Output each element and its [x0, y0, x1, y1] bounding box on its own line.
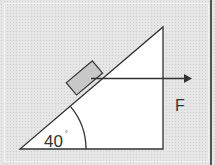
angle-label: 40	[44, 132, 63, 151]
force-arrow-head-icon	[184, 74, 192, 83]
incline-diagram: 40 ° F	[0, 0, 215, 165]
degree-symbol: °	[65, 130, 68, 137]
incline-triangle	[20, 27, 163, 149]
force-label: F	[175, 97, 185, 114]
